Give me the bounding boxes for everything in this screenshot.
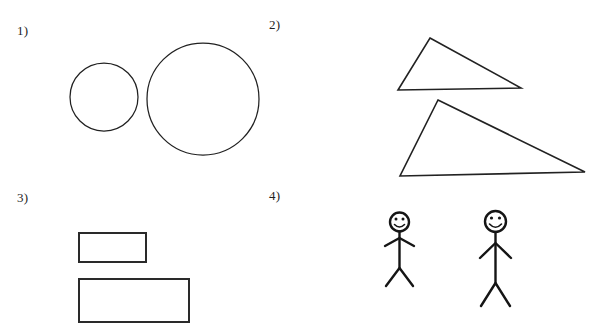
stick-smile-icon [395, 225, 405, 228]
large-triangle [400, 100, 585, 176]
stick-arms [480, 243, 511, 258]
panel-circles-group [70, 43, 259, 155]
worksheet-canvas: 1) 2) 3) 4) [0, 0, 603, 331]
small-rectangle [79, 233, 146, 262]
stick-eye-left-icon [490, 216, 493, 219]
stick-smile-icon [490, 224, 502, 227]
stick-legs [481, 283, 510, 306]
large-rectangle [79, 279, 189, 322]
panel-label-2: 2) [269, 18, 280, 31]
panel-rectangles-group [79, 233, 189, 322]
large-circle [147, 43, 259, 155]
small-circle [70, 63, 138, 131]
stick-arms [385, 238, 414, 246]
short-stick-figure [385, 213, 414, 287]
stick-legs [386, 268, 413, 286]
worksheet-drawing [0, 0, 603, 331]
tall-stick-figure [480, 211, 511, 306]
stick-eye-right-icon [498, 216, 501, 219]
panel-label-3: 3) [17, 191, 28, 204]
panel-triangles-group [398, 38, 585, 176]
stick-eye-left-icon [395, 218, 398, 221]
stick-eye-right-icon [402, 218, 405, 221]
stick-head-icon [390, 213, 409, 232]
panel-stick-figures-group [385, 211, 511, 306]
stick-head-icon [485, 211, 506, 232]
panel-label-1: 1) [17, 24, 28, 37]
panel-label-4: 4) [269, 189, 280, 202]
small-triangle [398, 38, 521, 90]
